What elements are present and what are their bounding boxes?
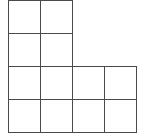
grid-cell: [8, 0, 41, 34]
grid-cell: [8, 33, 41, 67]
grid-cell: [72, 99, 105, 133]
grid-cell: [104, 99, 137, 133]
grid-cell: [40, 99, 73, 133]
grid-cell: [8, 99, 41, 133]
grid-cell: [40, 0, 73, 34]
grid-cell: [40, 66, 73, 100]
grid-cell: [8, 66, 41, 100]
grid-cell: [40, 33, 73, 67]
grid-cell: [104, 66, 137, 100]
grid-cell: [72, 66, 105, 100]
